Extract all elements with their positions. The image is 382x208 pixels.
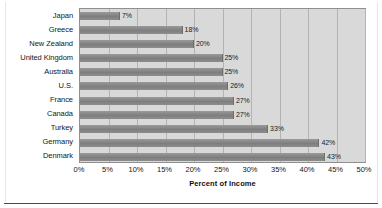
category-label-france: France: [0, 92, 76, 106]
bar-value-label: 25%: [225, 68, 239, 76]
bar-germany: [80, 139, 319, 147]
bar-value-label: 27%: [236, 111, 250, 119]
x-tick-40%: 40%: [299, 165, 314, 174]
bar-row: 27%: [80, 93, 365, 107]
bar-new-zealand: [80, 40, 194, 48]
bar-row: 33%: [80, 122, 365, 136]
bar-value-label: 43%: [327, 153, 341, 161]
x-tick-25%: 25%: [214, 165, 229, 174]
plot-area: 7%18%20%25%25%26%27%27%33%42%43%: [79, 8, 366, 163]
bar-value-label: 42%: [321, 139, 335, 147]
bar-value-label: 33%: [270, 125, 284, 133]
x-tick-5%: 5%: [102, 165, 113, 174]
bar-france: [80, 97, 234, 105]
category-label-united-kingdom: United Kingdom: [0, 50, 76, 64]
category-label-turkey: Turkey: [0, 121, 76, 135]
bar-row: 26%: [80, 79, 365, 93]
bar-row: 27%: [80, 108, 365, 122]
category-label-greece: Greece: [0, 22, 76, 36]
bar-turkey: [80, 125, 268, 133]
bar-rows: 7%18%20%25%25%26%27%27%33%42%43%: [80, 9, 365, 162]
bar-japan: [80, 12, 120, 20]
category-label-denmark: Denmark: [0, 149, 76, 163]
bar-row: 42%: [80, 136, 365, 150]
bar-value-label: 26%: [230, 82, 244, 90]
bar-row: 25%: [80, 65, 365, 79]
bar-row: 7%: [80, 9, 365, 23]
bar-australia: [80, 68, 223, 76]
bar-row: 43%: [80, 150, 365, 164]
category-label-japan: Japan: [0, 8, 76, 22]
x-axis-tick-labels: 0%5%10%15%20%25%30%35%40%45%50%: [79, 165, 366, 177]
bar-value-label: 18%: [185, 26, 199, 34]
bar-denmark: [80, 153, 325, 161]
bar-greece: [80, 26, 183, 34]
gridline-50%: [365, 9, 366, 162]
bar-row: 18%: [80, 23, 365, 37]
chart-figure: JapanGreeceNew ZealandUnited KingdomAust…: [0, 0, 382, 208]
bar-value-label: 7%: [122, 12, 132, 20]
bar-canada: [80, 111, 234, 119]
x-tick-10%: 10%: [128, 165, 143, 174]
x-tick-15%: 15%: [157, 165, 172, 174]
category-label-canada: Canada: [0, 107, 76, 121]
category-label-u-s: U.S.: [0, 78, 76, 92]
figure-bottom-rule: [4, 203, 378, 204]
bar-value-label: 20%: [196, 40, 210, 48]
x-tick-30%: 30%: [242, 165, 257, 174]
x-tick-35%: 35%: [271, 165, 286, 174]
x-axis-title: Percent of Income: [79, 179, 366, 188]
category-label-germany: Germany: [0, 135, 76, 149]
bar-united-kingdom: [80, 54, 223, 62]
x-tick-45%: 45%: [328, 165, 343, 174]
category-label-australia: Australia: [0, 64, 76, 78]
x-tick-20%: 20%: [185, 165, 200, 174]
x-tick-0%: 0%: [74, 165, 85, 174]
x-tick-50%: 50%: [356, 165, 371, 174]
figure-right-rule: [377, 2, 378, 202]
bar-u-s: [80, 82, 228, 90]
bar-row: 25%: [80, 51, 365, 65]
category-label-new-zealand: New Zealand: [0, 36, 76, 50]
bar-value-label: 27%: [236, 97, 250, 105]
category-axis-labels: JapanGreeceNew ZealandUnited KingdomAust…: [0, 8, 76, 163]
bar-value-label: 25%: [225, 54, 239, 62]
bar-row: 20%: [80, 37, 365, 51]
